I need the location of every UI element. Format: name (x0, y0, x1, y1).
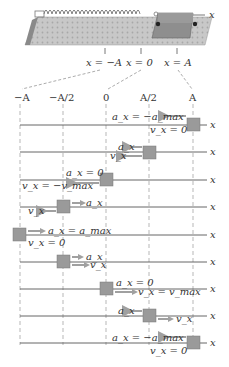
snapshot-9: a_x = −a_max v_x = 0 (112, 332, 200, 357)
velocity-label: v_x = 0 (150, 124, 188, 136)
glider-block (13, 228, 26, 241)
tick-half-A: A/2 (139, 92, 157, 103)
apparatus-axis-label: x (209, 9, 215, 20)
accel-label: a_x = a_max (48, 225, 112, 237)
velocity-label: v_x = −v_max (22, 180, 93, 192)
marker-zero: x = 0 (126, 57, 153, 68)
accel-label: a_x = 0 (66, 167, 104, 179)
snapshot-8: a_x v_x (118, 305, 193, 325)
svg-text:x: x (210, 119, 216, 130)
glider-block (100, 282, 113, 295)
glider-wheel-left (156, 22, 160, 26)
marker-minus-A: x = −A (86, 57, 122, 68)
glider-top (158, 13, 193, 23)
glider-block (187, 118, 200, 131)
glider-block (57, 200, 70, 213)
snapshot-4: a_x v_x (28, 197, 103, 217)
position-ticks: −A −A/2 0 A/2 A (14, 92, 197, 103)
snapshot-7: a_x = 0 v_x = v_max (100, 277, 201, 298)
tick-minus-A: −A (14, 92, 30, 103)
snapshot-1: a_x = −a_max v_x = 0 (112, 111, 200, 136)
shm-diagram: x x = −A x = 0 x = A −A −A/2 0 A/2 A (0, 0, 229, 367)
velocity-label: v_x (90, 259, 107, 271)
svg-text:x: x (210, 283, 216, 294)
accel-label: a_x (86, 197, 103, 209)
velocity-label: v_x = v_max (138, 286, 201, 298)
velocity-label: v_x = 0 (28, 237, 66, 249)
svg-text:x: x (210, 201, 216, 212)
accel-label: a_x (118, 305, 135, 317)
svg-text:x: x (210, 337, 216, 348)
snapshot-2: a_x v_x (110, 141, 156, 162)
svg-text:x: x (210, 256, 216, 267)
air-track-apparatus: x x = −A x = 0 x = A (22, 9, 215, 89)
snapshot-6: a_x v_x (57, 251, 107, 271)
svg-text:x: x (210, 146, 216, 157)
wall-mount (35, 11, 44, 17)
snapshot-5: a_x = a_max v_x = 0 (13, 225, 112, 249)
tick-zero: 0 (103, 92, 109, 103)
glider-block (187, 336, 200, 349)
accel-label: a_x = −a_max (112, 332, 184, 344)
accel-label: a_x = −a_max (112, 111, 184, 123)
snapshot-3: a_x = 0 v_x = −v_max (22, 167, 113, 192)
glider-block (143, 146, 156, 159)
velocity-label: v_x = 0 (150, 345, 188, 357)
tick-minus-half-A: −A/2 (49, 92, 74, 103)
spring-icon (44, 10, 140, 14)
marker-A: x = A (164, 57, 192, 68)
svg-text:x: x (210, 229, 216, 240)
axis-x-labels: x x x x x x x x x (210, 119, 216, 348)
velocity-label: v_x (28, 205, 45, 217)
tick-A: A (188, 92, 197, 103)
svg-text:x: x (210, 174, 216, 185)
velocity-label: v_x (110, 150, 127, 162)
glider-wheel-right (193, 22, 197, 26)
glider-block (143, 309, 156, 322)
svg-text:x: x (210, 310, 216, 321)
velocity-label: v_x (176, 313, 193, 325)
glider-block (57, 255, 70, 268)
